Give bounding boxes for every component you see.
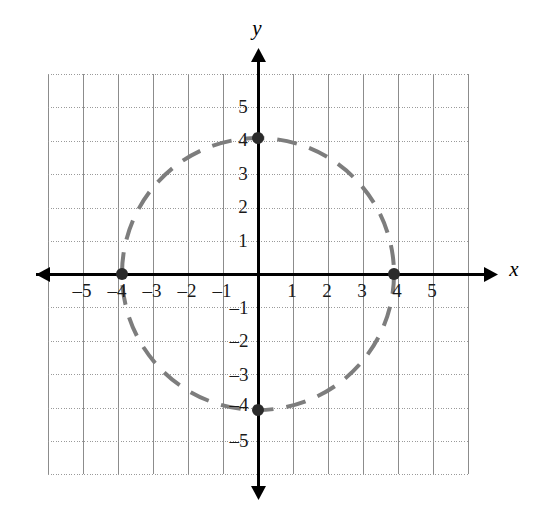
y-tick-label: –3: [230, 364, 249, 386]
y-tick-label: 3: [238, 163, 248, 185]
point-0-4: [252, 132, 264, 144]
y-tick-label: 5: [238, 96, 248, 118]
graph-screenshot: –5 –4 –3 –2 –1 1 2 3 4 5 5 4 3 2 1 –1 –2…: [0, 0, 538, 514]
x-tick-label: 3: [357, 280, 367, 302]
x-tick-label: 1: [287, 280, 297, 302]
x-tick-label: –2: [178, 280, 197, 302]
x-tick-label: –4: [108, 280, 127, 302]
y-axis-label: y: [252, 16, 261, 41]
x-tick-label: 5: [427, 280, 437, 302]
x-tick-label: 4: [392, 280, 402, 302]
x-tick-label: –3: [143, 280, 162, 302]
coordinate-plane-graph: [0, 0, 538, 514]
y-tick-label: –5: [230, 430, 249, 452]
point-4-0: [388, 268, 400, 280]
y-tick-label: –4: [230, 394, 249, 416]
point-0-neg4: [252, 404, 264, 416]
y-tick-label: 1: [238, 230, 248, 252]
point-neg4-0: [116, 268, 128, 280]
y-tick-label: –2: [230, 330, 249, 352]
x-axis-label: x: [509, 257, 518, 282]
y-tick-label: –1: [230, 297, 249, 319]
y-tick-label: 2: [238, 196, 248, 218]
x-tick-label: 2: [322, 280, 332, 302]
x-tick-label: –5: [73, 280, 92, 302]
y-tick-label: 4: [238, 129, 248, 151]
